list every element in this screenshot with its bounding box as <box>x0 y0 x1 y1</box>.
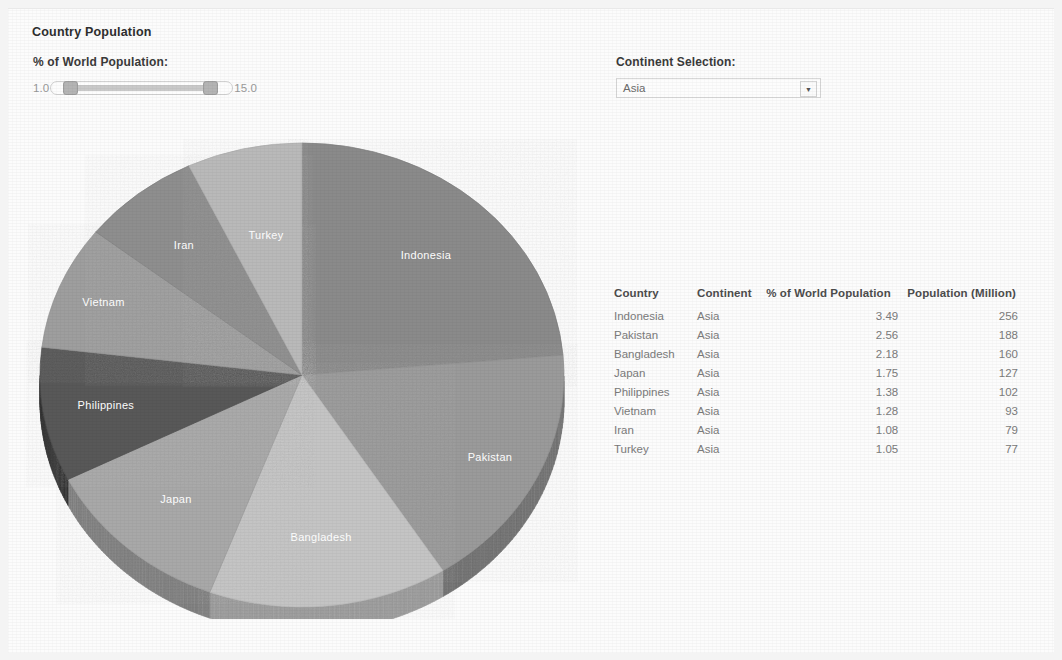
cell-country: Turkey <box>614 439 697 458</box>
pie-label-turkey: Turkey <box>249 229 284 241</box>
slider-track[interactable] <box>50 81 233 95</box>
cell-population: 188 <box>902 325 1018 344</box>
table-row[interactable]: IranAsia1.0879 <box>614 420 1018 439</box>
table-row[interactable]: PakistanAsia2.56188 <box>614 325 1018 344</box>
slider-range-fill <box>73 85 213 91</box>
cell-country: Japan <box>614 363 697 382</box>
pie-label-bangladesh: Bangladesh <box>291 531 352 543</box>
cell-percent: 1.05 <box>759 439 902 458</box>
cell-continent: Asia <box>697 325 759 344</box>
cell-percent: 1.08 <box>759 420 902 439</box>
chevron-down-icon[interactable]: ▼ <box>800 81 817 97</box>
table-header-percent[interactable]: % of World Population <box>759 287 902 306</box>
pie-label-vietnam: Vietnam <box>82 296 124 308</box>
table-row[interactable]: PhilippinesAsia1.38102 <box>614 382 1018 401</box>
cell-continent: Asia <box>697 363 759 382</box>
table-row[interactable]: VietnamAsia1.2893 <box>614 401 1018 420</box>
cell-population: 160 <box>902 344 1018 363</box>
continent-select-value: Asia <box>617 82 645 94</box>
table-row[interactable]: TurkeyAsia1.0577 <box>614 439 1018 458</box>
continent-select[interactable]: Asia ▼ <box>616 78 821 98</box>
cell-percent: 3.49 <box>759 306 902 325</box>
cell-population: 77 <box>902 439 1018 458</box>
table-header-continent[interactable]: Continent <box>697 287 759 306</box>
cell-continent: Asia <box>697 420 759 439</box>
pie-label-indonesia: Indonesia <box>401 249 452 261</box>
cell-country: Pakistan <box>614 325 697 344</box>
cell-percent: 2.56 <box>759 325 902 344</box>
population-pie-chart[interactable]: IndonesiaPakistanBangladeshJapanPhilippi… <box>26 139 586 619</box>
pie-label-philippines: Philippines <box>78 399 135 411</box>
cell-country: Vietnam <box>614 401 697 420</box>
cell-population: 127 <box>902 363 1018 382</box>
cell-percent: 1.28 <box>759 401 902 420</box>
table-row[interactable]: JapanAsia1.75127 <box>614 363 1018 382</box>
table-body: IndonesiaAsia3.49256PakistanAsia2.56188B… <box>614 306 1018 458</box>
table-header-population[interactable]: Population (Million) <box>902 287 1018 306</box>
cell-percent: 1.38 <box>759 382 902 401</box>
cell-continent: Asia <box>697 382 759 401</box>
slider-row: 1.0 15.0 <box>33 78 333 98</box>
cell-population: 256 <box>902 306 1018 325</box>
cell-continent: Asia <box>697 306 759 325</box>
cell-percent: 1.75 <box>759 363 902 382</box>
cell-percent: 2.18 <box>759 344 902 363</box>
continent-label: Continent Selection: <box>616 55 846 69</box>
country-population-table: Country Continent % of World Population … <box>614 287 1018 458</box>
app-card: Country Population % of World Population… <box>8 8 1054 653</box>
pie-label-pakistan: Pakistan <box>468 451 513 463</box>
cell-population: 93 <box>902 401 1018 420</box>
pie-chart-svg: IndonesiaPakistanBangladeshJapanPhilippi… <box>26 139 586 619</box>
cell-country: Philippines <box>614 382 697 401</box>
pie-label-iran: Iran <box>174 239 194 251</box>
table-header-country[interactable]: Country <box>614 287 697 306</box>
continent-selection-group: Continent Selection: Asia ▼ <box>616 55 846 98</box>
cell-continent: Asia <box>697 439 759 458</box>
cell-continent: Asia <box>697 401 759 420</box>
cell-country: Bangladesh <box>614 344 697 363</box>
slider-handle-min[interactable] <box>63 81 78 95</box>
population-percent-slider-group: % of World Population: 1.0 15.0 <box>33 55 333 98</box>
slider-max-label: 15.0 <box>234 82 257 94</box>
pie-label-japan: Japan <box>160 493 191 505</box>
slider-min-label: 1.0 <box>33 82 49 94</box>
cell-population: 79 <box>902 420 1018 439</box>
cell-population: 102 <box>902 382 1018 401</box>
table-row[interactable]: BangladeshAsia2.18160 <box>614 344 1018 363</box>
cell-country: Indonesia <box>614 306 697 325</box>
cell-country: Iran <box>614 420 697 439</box>
table-row[interactable]: IndonesiaAsia3.49256 <box>614 306 1018 325</box>
cell-continent: Asia <box>697 344 759 363</box>
slider-handle-max[interactable] <box>203 81 218 95</box>
table-header-row: Country Continent % of World Population … <box>614 287 1018 306</box>
page-title: Country Population <box>32 25 152 39</box>
slider-label: % of World Population: <box>33 55 333 69</box>
